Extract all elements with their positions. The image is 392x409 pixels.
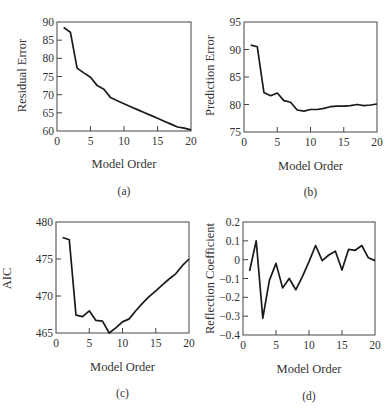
x-tick-label: 20	[369, 339, 381, 351]
y-tick-label: −0.4	[219, 329, 240, 341]
chart-d-ylabel: Reflection Coefficient	[203, 209, 218, 349]
x-tick-label: 0	[240, 339, 246, 351]
x-tick-label: 5	[273, 339, 279, 351]
x-tick-label: 10	[303, 339, 315, 351]
chart-d-plot: 05101520−0.4−0.3−0.2−0.100.10.2	[0, 0, 392, 409]
x-tick-label: 15	[336, 339, 348, 351]
y-tick-label: −0.3	[219, 310, 240, 322]
y-tick-label: 0	[234, 254, 240, 266]
y-tick-label: −0.1	[219, 273, 240, 285]
chart-d-caption: (d)	[243, 390, 375, 402]
y-tick-label: 0.2	[226, 216, 241, 228]
chart-d-xlabel: Model Order	[243, 362, 375, 377]
data-line	[250, 241, 375, 318]
y-tick-label: −0.2	[219, 291, 240, 303]
y-tick-label: 0.1	[226, 235, 241, 247]
panel-d: 05101520−0.4−0.3−0.2−0.100.10.2 Reflecti…	[0, 0, 392, 409]
